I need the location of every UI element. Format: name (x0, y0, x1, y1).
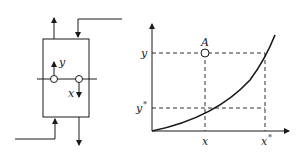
point-a-label: A (200, 36, 209, 49)
ystar-tick-label: y (135, 102, 143, 115)
gas-inlet-line (15, 119, 55, 139)
xstar-tick-sup: * (268, 133, 272, 142)
equilibrium-plot: A y y * x x * (135, 24, 289, 148)
contactor-schematic: y x (15, 18, 122, 145)
liquid-composition-label: x (68, 87, 75, 100)
liquid-sample-point (76, 76, 83, 83)
operating-point-a (201, 49, 209, 57)
x-tick-label: x (202, 135, 209, 148)
figure: y x A y y * x x * (0, 0, 297, 152)
y-tick-label: y (140, 47, 148, 60)
ystar-tick-sup: * (143, 100, 147, 109)
equilibrium-curve (152, 35, 275, 131)
liquid-inlet-line (78, 19, 122, 37)
gas-composition-label: y (58, 56, 66, 69)
gas-sample-point (51, 76, 58, 83)
xstar-tick-label: x (261, 135, 268, 148)
